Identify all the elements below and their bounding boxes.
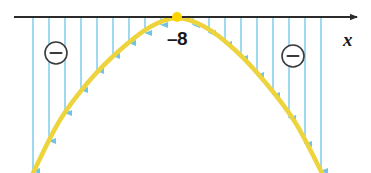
diagram-canvas (0, 0, 371, 173)
vertex-value-label: –8 (167, 29, 187, 48)
minus-sign-icon (45, 42, 67, 64)
x-axis-label: x (343, 30, 353, 49)
vertex-point (172, 12, 182, 22)
parabola-sign-diagram: –8 x (0, 0, 371, 173)
minus-sign-icon (282, 45, 304, 67)
